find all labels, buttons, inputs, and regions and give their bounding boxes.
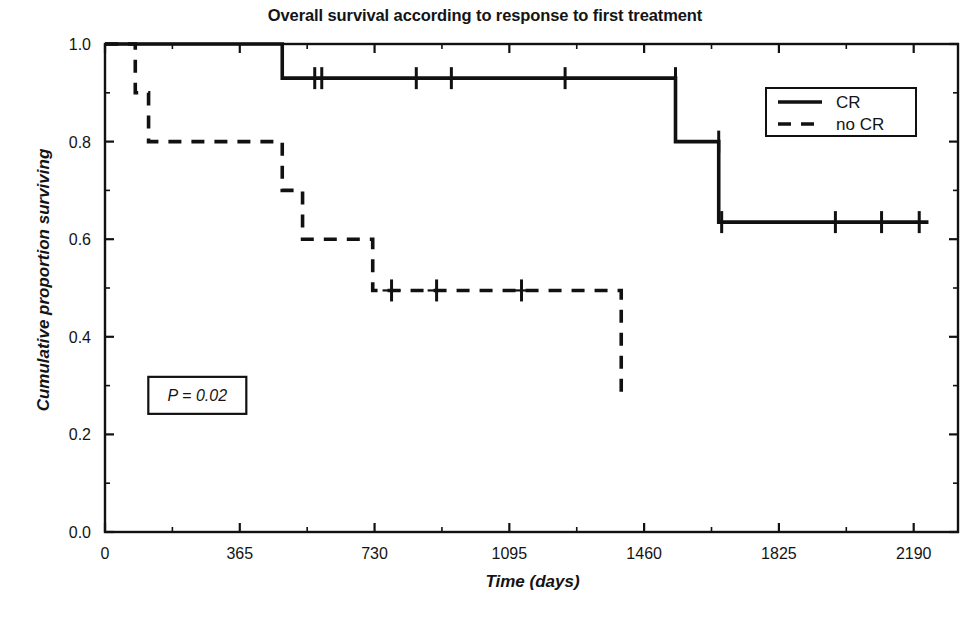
x-axis-tick-labels: 03657301095146018252190	[101, 545, 932, 562]
y-tick-label: 1.0	[69, 36, 91, 53]
x-tick-label: 1825	[761, 545, 797, 562]
x-tick-label: 0	[101, 545, 110, 562]
legend-label: no CR	[836, 115, 884, 134]
y-axis-tick-labels: 0.00.20.40.60.81.0	[69, 36, 91, 541]
chart-legend: CRno CR	[766, 88, 916, 136]
survival-chart-figure: Overall survival according to response t…	[0, 0, 970, 618]
y-tick-label: 0.0	[69, 524, 91, 541]
legend-label: CR	[836, 93, 861, 112]
p-value-text: P = 0.02	[168, 387, 228, 404]
y-tick-label: 0.6	[69, 231, 91, 248]
y-tick-label: 0.2	[69, 426, 91, 443]
x-tick-label: 2190	[896, 545, 932, 562]
y-tick-label: 0.8	[69, 134, 91, 151]
plot-area: 0.00.20.40.60.81.0 036573010951460182521…	[0, 0, 970, 618]
x-tick-label: 730	[361, 545, 388, 562]
survival-curve-no-cr	[105, 44, 621, 398]
x-tick-label: 1095	[492, 545, 528, 562]
p-value-annotation: P = 0.02	[148, 377, 246, 414]
x-tick-label: 1460	[626, 545, 662, 562]
x-tick-label: 365	[226, 545, 253, 562]
y-tick-label: 0.4	[69, 329, 91, 346]
